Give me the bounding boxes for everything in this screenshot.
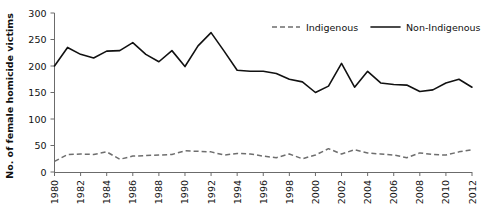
x-tick-label: 1984 — [101, 180, 112, 204]
y-axis-title: No. of female homicide victims — [4, 13, 15, 179]
y-tick-label: 0 — [40, 167, 46, 178]
series-line-indigenous — [55, 149, 473, 162]
x-tick-label: 1990 — [179, 180, 190, 204]
plot-area — [55, 33, 473, 162]
x-tick-label: 2002 — [336, 180, 347, 204]
x-tick-label: 2012 — [467, 180, 478, 204]
y-tick-label: 50 — [34, 140, 46, 151]
x-tick-label: 1992 — [206, 180, 217, 204]
x-tick-label: 2004 — [362, 180, 373, 204]
y-axis: 050100150200250300 — [28, 8, 54, 178]
x-tick-label: 1994 — [232, 180, 243, 204]
x-tick-label: 1986 — [127, 180, 138, 204]
x-tick-label: 2006 — [388, 180, 399, 204]
x-axis: 1980198219841986198819901992199419961998… — [49, 172, 478, 204]
y-tick-group: 050100150200250300 — [28, 8, 54, 178]
x-tick-label: 1998 — [284, 180, 295, 204]
legend-label-indigenous: Indigenous — [306, 22, 358, 33]
y-tick-label: 200 — [28, 61, 46, 72]
y-tick-label: 300 — [28, 8, 46, 19]
x-tick-group: 1980198219841986198819901992199419961998… — [49, 172, 478, 204]
line-chart: No. of female homicide victims 050100150… — [0, 0, 484, 218]
x-tick-label: 2010 — [440, 180, 451, 204]
series-line-non-indigenous — [55, 33, 473, 93]
y-tick-label: 250 — [28, 34, 46, 45]
x-tick-label: 1988 — [153, 180, 164, 204]
legend-label-non-indigenous: Non-Indigenous — [406, 22, 481, 33]
x-tick-label: 1996 — [258, 180, 269, 204]
x-tick-label: 1980 — [49, 180, 60, 204]
x-tick-label: 2008 — [414, 180, 425, 204]
y-tick-label: 100 — [28, 114, 46, 125]
x-tick-label: 1982 — [75, 180, 86, 204]
legend: Indigenous Non-Indigenous — [272, 22, 481, 33]
y-tick-label: 150 — [28, 87, 46, 98]
x-tick-label: 2000 — [310, 180, 321, 204]
